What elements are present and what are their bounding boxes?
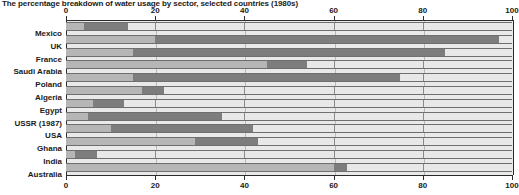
- y-axis-label: India: [0, 150, 62, 159]
- bar-gridline: [244, 113, 245, 120]
- stacked-bar[interactable]: [66, 22, 512, 31]
- bar-segment-domestic[interactable]: [66, 61, 267, 68]
- y-axis-label: Ghana: [0, 137, 62, 146]
- stacked-bar[interactable]: [66, 60, 512, 69]
- bar-segment-domestic[interactable]: [66, 36, 155, 43]
- bar-segment-domestic[interactable]: [66, 113, 88, 120]
- bar-gridline: [423, 138, 424, 145]
- bar-gridline: [423, 151, 424, 158]
- bar-gridline: [423, 113, 424, 120]
- stacked-bar[interactable]: [66, 112, 512, 121]
- x-tick-top: [423, 16, 424, 20]
- bar-segment-industry[interactable]: [267, 61, 307, 68]
- bar-segment-industry[interactable]: [142, 87, 164, 94]
- bar-segment-domestic[interactable]: [66, 138, 195, 145]
- stacked-bar[interactable]: [66, 86, 512, 95]
- x-tick-bottom: [512, 176, 513, 180]
- x-tick-bottom: [334, 176, 335, 180]
- bar-segment-agriculture[interactable]: [499, 36, 512, 43]
- bar-segment-domestic[interactable]: [66, 151, 75, 158]
- bar-row: Australia: [0, 163, 515, 172]
- x-tick-label-bottom: 100: [505, 181, 518, 190]
- bar-segment-domestic[interactable]: [66, 87, 142, 94]
- bar-segment-agriculture[interactable]: [253, 125, 512, 132]
- bar-segment-industry[interactable]: [195, 138, 257, 145]
- bar-gridline: [334, 138, 335, 145]
- x-tick-label-top: 100: [505, 6, 518, 15]
- bar-gridline: [244, 23, 245, 30]
- bar-segment-industry[interactable]: [84, 23, 129, 30]
- bar-segment-industry[interactable]: [133, 74, 401, 81]
- bar-segment-domestic[interactable]: [66, 100, 93, 107]
- y-axis-label: Saudi Arabia: [0, 60, 62, 69]
- x-tick-bottom: [155, 176, 156, 180]
- bar-segment-agriculture[interactable]: [445, 49, 512, 56]
- y-axis-label: USA: [0, 124, 62, 133]
- x-tick-bottom: [423, 176, 424, 180]
- x-tick-label-top: 0: [64, 6, 68, 15]
- bar-segment-domestic[interactable]: [66, 49, 133, 56]
- bar-segment-agriculture[interactable]: [128, 23, 512, 30]
- x-tick-top: [155, 16, 156, 20]
- bar-row: Algeria: [0, 86, 515, 95]
- bar-segment-agriculture[interactable]: [307, 61, 512, 68]
- bar-gridline: [423, 61, 424, 68]
- stacked-bar[interactable]: [66, 35, 512, 44]
- bar-row: USA: [0, 124, 515, 133]
- stacked-bar[interactable]: [66, 124, 512, 133]
- x-tick-label-bottom: 80: [418, 181, 427, 190]
- bar-row: USSR (1987): [0, 112, 515, 121]
- x-tick-top: [512, 16, 513, 20]
- bar-gridline: [244, 87, 245, 94]
- x-tick-label-top: 60: [329, 6, 338, 15]
- bar-segment-domestic[interactable]: [66, 74, 133, 81]
- stacked-bar[interactable]: [66, 163, 512, 172]
- bar-segment-domestic[interactable]: [66, 23, 84, 30]
- bar-row: Poland: [0, 73, 515, 82]
- bar-segment-agriculture[interactable]: [401, 74, 513, 81]
- x-tick-label-bottom: 40: [240, 181, 249, 190]
- bar-segment-agriculture[interactable]: [124, 100, 512, 107]
- bar-row: France: [0, 48, 515, 57]
- stacked-bar[interactable]: [66, 99, 512, 108]
- bar-segment-industry[interactable]: [93, 100, 124, 107]
- bar-segment-domestic[interactable]: [66, 125, 111, 132]
- bar-segment-agriculture[interactable]: [347, 164, 512, 171]
- y-axis-label: Egypt: [0, 99, 62, 108]
- x-tick-top: [334, 16, 335, 20]
- bar-gridline: [155, 100, 156, 107]
- bar-row: Mexico: [0, 22, 515, 31]
- y-axis-label: Australia: [0, 163, 62, 172]
- x-axis-top: [66, 20, 513, 21]
- stacked-bar[interactable]: [66, 137, 512, 146]
- bar-segment-industry[interactable]: [88, 113, 222, 120]
- bar-gridline: [334, 125, 335, 132]
- bar-gridline: [423, 125, 424, 132]
- bar-segment-industry[interactable]: [334, 164, 347, 171]
- bar-segment-industry[interactable]: [75, 151, 97, 158]
- bar-gridline: [244, 151, 245, 158]
- bar-segment-industry[interactable]: [111, 125, 254, 132]
- bar-row: India: [0, 150, 515, 159]
- x-tick-label-top: 40: [240, 6, 249, 15]
- bar-row: Ghana: [0, 137, 515, 146]
- stacked-bar[interactable]: [66, 73, 512, 82]
- y-axis-label: France: [0, 48, 62, 57]
- bar-segment-domestic[interactable]: [66, 164, 334, 171]
- y-axis-label: Poland: [0, 73, 62, 82]
- bar-segment-industry[interactable]: [155, 36, 498, 43]
- bar-segment-agriculture[interactable]: [164, 87, 512, 94]
- bar-segment-industry[interactable]: [133, 49, 445, 56]
- bar-gridline: [423, 23, 424, 30]
- stacked-bar[interactable]: [66, 150, 512, 159]
- stacked-bar[interactable]: [66, 48, 512, 57]
- bar-gridline: [423, 164, 424, 171]
- bar-row: Egypt: [0, 99, 515, 108]
- y-axis-label: Mexico: [0, 22, 62, 31]
- bar-segment-agriculture[interactable]: [97, 151, 512, 158]
- bar-segment-agriculture[interactable]: [258, 138, 512, 145]
- x-tick-top: [244, 16, 245, 20]
- bar-row: UK: [0, 35, 515, 44]
- bar-segment-agriculture[interactable]: [222, 113, 512, 120]
